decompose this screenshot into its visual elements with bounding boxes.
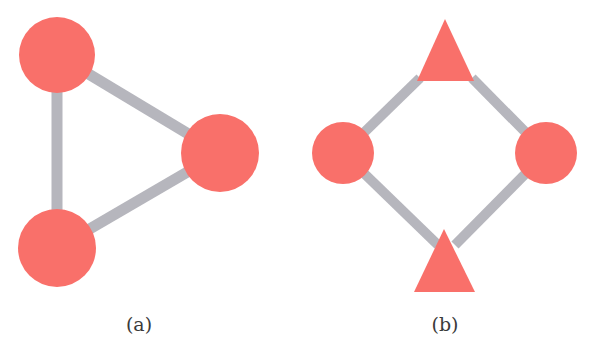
graph-figure xyxy=(0,0,589,346)
node-a2-circle xyxy=(181,114,259,192)
node-b1-triangle xyxy=(417,19,474,81)
panel-a xyxy=(18,17,259,287)
panel-b-label: (b) xyxy=(432,313,459,335)
node-b2-circle xyxy=(312,122,374,184)
node-b3-circle xyxy=(515,122,577,184)
node-a1-circle xyxy=(19,17,95,93)
node-a3-circle xyxy=(18,209,96,287)
panel-b xyxy=(312,19,577,292)
panel-a-label: (a) xyxy=(126,313,152,335)
